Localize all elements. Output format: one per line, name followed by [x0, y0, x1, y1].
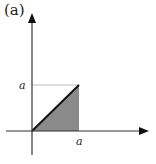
diagram-canvas: a a [0, 0, 156, 164]
y-axis-arrow-icon [28, 13, 36, 23]
y-tick-label: a [19, 79, 26, 92]
x-tick-label: a [76, 135, 83, 148]
x-axis-arrow-icon [139, 127, 149, 135]
